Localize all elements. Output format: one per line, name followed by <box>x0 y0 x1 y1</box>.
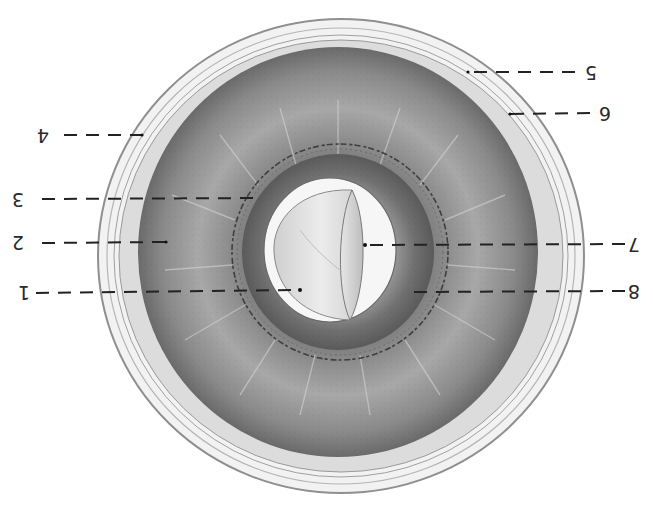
leader-line-6 <box>510 113 590 114</box>
eye-anatomy-diagram: 1 2 3 4 5 6 7 8 <box>0 0 653 506</box>
eye-illustration <box>0 0 653 506</box>
label-1: 1 <box>18 283 30 302</box>
label-6: 6 <box>599 104 611 123</box>
label-3: 3 <box>12 190 24 209</box>
label-5: 5 <box>585 63 597 82</box>
label-4: 4 <box>37 126 49 145</box>
label-8: 8 <box>628 282 640 301</box>
label-7: 7 <box>628 235 640 254</box>
label-2: 2 <box>12 233 24 252</box>
